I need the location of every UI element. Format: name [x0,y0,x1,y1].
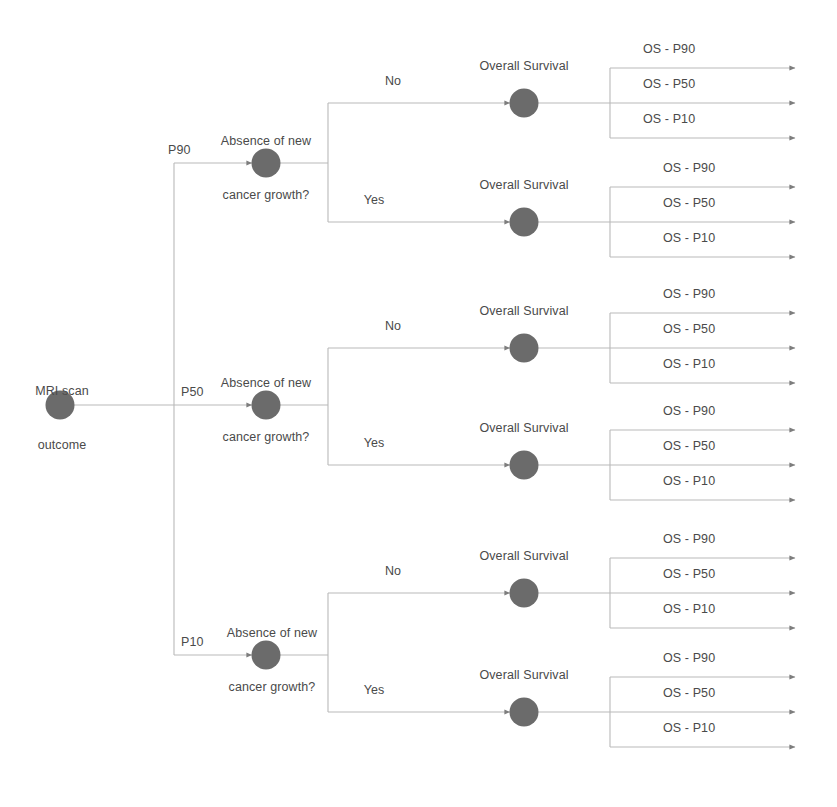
outcome-label-p90-yes: Overall Survival [479,177,568,194]
os-arrow-label-p10-yes-3: OS - P10 [663,720,715,737]
decision-tree-diagram: MRI scan outcome P90 P50 P10 Absence of … [0,0,837,807]
answer-label-p50-no: No [385,318,401,335]
os-arrow-label-p90-yes-2: OS - P50 [663,195,715,212]
os-arrow-label-p90-no-2: OS - P50 [643,76,695,93]
node-overall-survival-p10-yes[interactable] [510,698,539,727]
outcome-label-p50-yes: Overall Survival [479,420,568,437]
os-arrow-label-p10-no-2: OS - P50 [663,566,715,583]
answer-label-p10-yes: Yes [364,682,385,699]
answer-label-p10-no: No [385,563,401,580]
os-arrow-label-p90-yes-1: OS - P90 [663,160,715,177]
answer-label-p50-yes: Yes [364,435,385,452]
outcome-label-p10-yes: Overall Survival [479,667,568,684]
decision-label-p10-line2: cancer growth? [197,678,347,696]
os-arrow-label-p90-yes-3: OS - P10 [663,230,715,247]
node-overall-survival-p50-yes[interactable] [510,451,539,480]
branch-label-p90: P90 [168,142,191,159]
decision-label-p50-line2: cancer growth? [191,428,341,446]
node-overall-survival-p90-yes[interactable] [510,208,539,237]
node-overall-survival-p90-no[interactable] [510,89,539,118]
answer-label-p90-yes: Yes [364,192,385,209]
decision-label-p10: Absence of new cancer growth? [197,588,347,732]
decision-label-p50-line1: Absence of new [191,374,341,392]
root-label-line2: outcome [2,436,122,454]
os-arrow-label-p50-no-1: OS - P90 [663,286,715,303]
root-label-line1: MRI scan [2,382,122,400]
os-arrow-label-p10-no-1: OS - P90 [663,531,715,548]
os-arrow-label-p50-yes-2: OS - P50 [663,438,715,455]
os-arrow-label-p50-yes-3: OS - P10 [663,473,715,490]
decision-label-p50: Absence of new cancer growth? [191,338,341,482]
decision-label-p10-line1: Absence of new [197,624,347,642]
outcome-label-p50-no: Overall Survival [479,303,568,320]
decision-label-p90: Absence of new cancer growth? [191,96,341,240]
outcome-label-p10-no: Overall Survival [479,548,568,565]
root-label: MRI scan outcome [2,346,122,490]
os-arrow-label-p90-no-1: OS - P90 [643,41,695,58]
os-arrow-label-p10-no-3: OS - P10 [663,601,715,618]
decision-label-p90-line1: Absence of new [191,132,341,150]
node-overall-survival-p50-no[interactable] [510,334,539,363]
node-overall-survival-p10-no[interactable] [510,579,539,608]
os-arrow-label-p50-no-3: OS - P10 [663,356,715,373]
os-arrow-label-p90-no-3: OS - P10 [643,111,695,128]
outcome-label-p90-no: Overall Survival [479,58,568,75]
os-arrow-label-p50-no-2: OS - P50 [663,321,715,338]
decision-label-p90-line2: cancer growth? [191,186,341,204]
os-arrow-label-p10-yes-1: OS - P90 [663,650,715,667]
answer-label-p90-no: No [385,73,401,90]
os-arrow-label-p50-yes-1: OS - P90 [663,403,715,420]
os-arrow-label-p10-yes-2: OS - P50 [663,685,715,702]
